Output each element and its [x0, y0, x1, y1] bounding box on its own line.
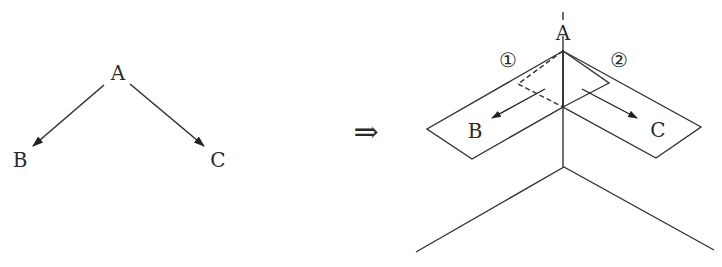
marker-2-label: ②: [610, 48, 628, 72]
fold-solid-outline: [563, 51, 609, 107]
panel-c-label: C: [650, 118, 665, 142]
diagram-canvas: A B C ⇒ A B C ① ②: [0, 0, 722, 267]
marker-1-label: ①: [499, 48, 517, 72]
arrow-to-c: [582, 89, 637, 118]
fold-dashed-outline: [518, 51, 563, 107]
edge-a-to-c-arrow: [130, 84, 204, 146]
implies-arrow-icon: ⇒: [353, 114, 378, 149]
right-diagram: [416, 12, 714, 252]
left-tree: A B C: [13, 61, 226, 172]
apex-a-label: A: [555, 21, 571, 45]
arrow-to-b: [492, 89, 545, 118]
edge-a-to-b-arrow: [33, 85, 104, 146]
right-panel-c: [563, 51, 701, 158]
diagram-svg: A B C ⇒ A B C ① ②: [0, 0, 722, 267]
panel-b-label: B: [468, 119, 483, 143]
node-a-label: A: [110, 61, 126, 85]
node-b-label: B: [13, 148, 28, 172]
bottom-v-lines: [416, 167, 714, 252]
left-panel-b: [427, 51, 563, 159]
node-c-label: C: [210, 148, 225, 172]
